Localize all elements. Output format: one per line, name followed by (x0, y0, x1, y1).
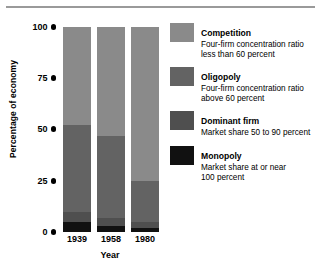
bar-segment-dominant-firm (63, 212, 91, 222)
y-tick-label: 50 (37, 125, 47, 134)
y-tick-label: 75 (37, 74, 47, 83)
legend-item-oligopoly[interactable]: Oligopoly Four-firm concentration ratio … (170, 66, 321, 103)
stacked-bar-1939[interactable] (63, 27, 91, 232)
bar-segment-dominant-firm (97, 218, 125, 226)
y-tick-label: 0 (42, 228, 47, 237)
bar-segment-competition (63, 27, 91, 125)
legend-swatch-icon (170, 67, 194, 86)
bar-segment-oligopoly (97, 136, 125, 218)
legend-item-desc-line1: Four-firm concentration ratio (201, 40, 321, 50)
x-tick-label-1980: 1980 (128, 234, 162, 244)
x-tick-label-1939: 1939 (60, 234, 94, 244)
legend-item-title: Competition (201, 28, 251, 38)
legend-swatch-icon (170, 146, 194, 165)
legend-item-monopoly[interactable]: Monopoly Market share at or near 100 per… (170, 145, 321, 182)
legend-item-text: Oligopoly Four-firm concentration ratio … (201, 66, 321, 103)
chart-plot-area: Percentage of economy 100 75 50 25 0 193… (0, 0, 170, 270)
y-axis-ticks: 100 75 50 25 0 (10, 0, 56, 270)
y-tick-25: 25 (8, 176, 56, 186)
legend-item-desc-line2: 100 percent (201, 173, 321, 183)
bar-segment-monopoly (63, 222, 91, 232)
y-tick-label: 100 (32, 23, 47, 32)
tick-dot-icon (51, 75, 57, 81)
legend-item-desc-line1: Four-firm concentration ratio (201, 84, 321, 94)
legend-item-title: Dominant firm (201, 116, 259, 126)
tick-dot-icon (51, 24, 57, 30)
legend-item-dominant-firm[interactable]: Dominant firm Market share 50 to 90 perc… (170, 110, 321, 138)
legend-item-desc-line1: Market share 50 to 90 percent (201, 128, 321, 138)
legend-item-text: Dominant firm Market share 50 to 90 perc… (201, 110, 321, 138)
y-tick-100: 100 (8, 22, 56, 32)
bar-segment-monopoly (131, 228, 159, 232)
stacked-bar-1980[interactable] (131, 27, 159, 232)
bar-group: 1939 1958 1980 (60, 0, 170, 270)
bar-segment-oligopoly (63, 125, 91, 211)
chart-legend: Competition Four-firm concentration rati… (170, 22, 321, 189)
y-tick-50: 50 (8, 124, 56, 134)
legend-item-text: Competition Four-firm concentration rati… (201, 22, 321, 59)
bar-segment-competition (97, 27, 125, 136)
y-tick-0: 0 (8, 227, 56, 237)
legend-swatch-icon (170, 23, 194, 42)
tick-dot-icon (51, 126, 57, 132)
legend-item-desc-line1: Market share at or near (201, 163, 321, 173)
y-tick-75: 75 (8, 73, 56, 83)
y-tick-label: 25 (37, 177, 47, 186)
legend-item-competition[interactable]: Competition Four-firm concentration rati… (170, 22, 321, 59)
bar-segment-oligopoly (131, 181, 159, 222)
legend-swatch-icon (170, 111, 194, 130)
stacked-bar-1958[interactable] (97, 27, 125, 232)
legend-item-title: Oligopoly (201, 72, 241, 82)
bar-segment-competition (131, 27, 159, 181)
bar-segment-monopoly (97, 226, 125, 232)
legend-item-text: Monopoly Market share at or near 100 per… (201, 145, 321, 182)
tick-dot-icon (51, 178, 57, 184)
tick-dot-icon (51, 229, 57, 235)
x-tick-label-1958: 1958 (94, 234, 128, 244)
legend-item-desc-line2: less than 60 percent (201, 50, 321, 60)
legend-item-title: Monopoly (201, 151, 242, 161)
x-axis-title: Year (60, 250, 160, 260)
legend-item-desc-line2: above 60 percent (201, 94, 321, 104)
